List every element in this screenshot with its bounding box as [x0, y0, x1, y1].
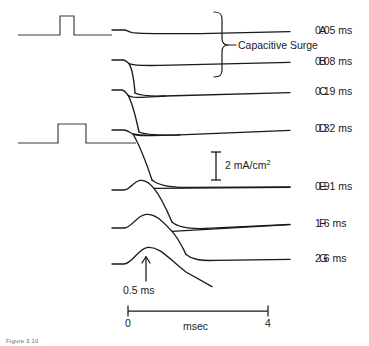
- axis-tick-min-label: 0: [125, 318, 131, 329]
- latency-value-G: 2.6 ms: [315, 253, 347, 264]
- scale-bar-label: 2 mA/cm2: [225, 160, 271, 171]
- latency-value-E: 0.91 ms: [315, 181, 352, 192]
- latency-value-B: 0.08 ms: [315, 56, 352, 67]
- peak-time-label: 0.5 ms: [123, 285, 155, 296]
- latency-value-C: 0.19 ms: [315, 86, 352, 97]
- scale-bar-exponent: 2: [266, 158, 270, 167]
- scale-bar-label-text: 2 mA/cm: [225, 159, 266, 171]
- latency-value-D: 0.32 ms: [315, 123, 352, 134]
- capacitive-surge-label: Capacitive Surge: [238, 40, 318, 51]
- time-axis-layer: [0, 0, 369, 346]
- axis-tick-max-label: 4: [265, 318, 271, 329]
- latency-value-A: 0.05 ms: [315, 25, 352, 36]
- axis-title: msec: [183, 321, 208, 332]
- latency-value-F: 1.6 ms: [315, 218, 347, 229]
- figure-caption: Figure 3.10: [6, 338, 39, 344]
- figure-root: A B C D E F G 0.05 ms 0.08 ms 0.19 ms 0.…: [0, 0, 369, 346]
